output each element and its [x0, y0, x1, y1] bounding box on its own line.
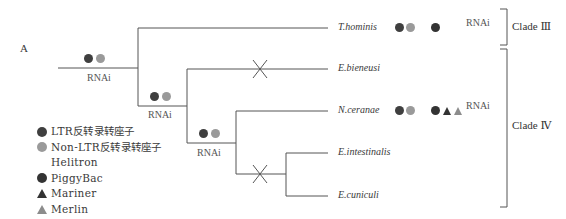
rnai-label: RNAi	[466, 17, 490, 28]
rnai-label: RNAi	[466, 100, 490, 111]
clade-iv-bracket	[500, 49, 507, 207]
legend: LTR反转录转座子 Non-LTR反转录转座子 Helitron PiggyBa…	[37, 124, 162, 217]
piggybac-dot-icon	[431, 23, 440, 32]
legend-item-non-ltr: Non-LTR反转录转座子	[37, 140, 162, 156]
ltr-dot-icon	[37, 127, 47, 137]
legend-item-piggybac: PiggyBac	[37, 171, 162, 187]
clade-iv-label: Clade Ⅳ	[512, 119, 551, 132]
clade-iii-bracket	[500, 9, 507, 45]
ltr-dot-icon	[199, 129, 208, 138]
legend-label: Mariner	[51, 186, 96, 202]
ltr-dot-icon	[150, 92, 159, 101]
ltr-dot-icon	[395, 23, 404, 32]
ltr-dot-icon	[395, 106, 404, 115]
piggybac-dot-icon	[431, 106, 440, 115]
mariner-triangle-icon	[37, 189, 47, 198]
rnai-label: RNAi	[87, 72, 111, 83]
helitron-blank-icon	[37, 158, 47, 168]
non-ltr-dot-icon	[162, 92, 171, 101]
legend-item-helitron: Helitron	[37, 155, 162, 171]
legend-item-merlin: Merlin	[37, 202, 162, 218]
piggybac-dot-icon	[37, 173, 47, 183]
taxon-t-hominis: T.hominis	[338, 21, 377, 32]
legend-label: Merlin	[51, 202, 88, 218]
rnai-label: RNAi	[148, 109, 172, 120]
taxon-n-ceranae: N.ceranae	[338, 104, 379, 115]
panel-label: A	[20, 42, 28, 54]
legend-item-mariner: Mariner	[37, 186, 162, 202]
legend-label: Helitron	[51, 155, 98, 171]
legend-label: LTR反转录转座子	[51, 124, 135, 140]
legend-label: Non-LTR反转录转座子	[51, 140, 162, 156]
non-ltr-dot-icon	[406, 106, 415, 115]
legend-label: PiggyBac	[51, 171, 103, 187]
legend-item-ltr: LTR反转录转座子	[37, 124, 162, 140]
ltr-dot-icon	[84, 54, 93, 63]
merlin-triangle-icon	[454, 107, 462, 115]
taxon-e-intestinalis: E.intestinalis	[338, 146, 391, 157]
non-ltr-dot-icon	[406, 23, 415, 32]
taxon-e-cuniculi: E.cuniculi	[338, 189, 379, 200]
clade-iii-label: Clade Ⅲ	[512, 20, 551, 33]
non-ltr-dot-icon	[211, 129, 220, 138]
taxon-e-bieneusi: E.bieneusi	[338, 62, 380, 73]
non-ltr-dot-icon	[37, 142, 47, 152]
non-ltr-dot-icon	[96, 54, 105, 63]
merlin-triangle-icon	[37, 205, 47, 214]
rnai-label: RNAi	[197, 147, 221, 158]
mariner-triangle-icon	[443, 107, 451, 115]
